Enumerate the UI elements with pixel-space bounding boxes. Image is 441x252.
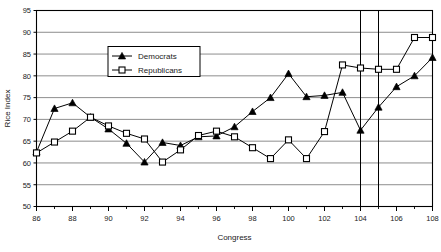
data-point-republicans-92 [142, 136, 148, 142]
data-point-republicans-104 [358, 65, 364, 71]
x-tick-label: 92 [140, 214, 148, 223]
data-point-republicans-99 [268, 156, 274, 162]
data-point-republicans-86 [34, 150, 40, 156]
x-axis-title: Congress [217, 233, 251, 242]
data-point-republicans-91 [124, 130, 130, 136]
data-point-republicans-106 [394, 66, 400, 72]
legend-marker-open-square [119, 67, 125, 73]
y-tick-label: 60 [23, 159, 31, 168]
chart-container: 5055606570758085909586889092949698100102… [0, 0, 441, 252]
plot-border [37, 11, 433, 207]
x-tick-label: 106 [390, 214, 403, 223]
data-point-republicans-102 [322, 129, 328, 135]
legend-label-0: Democrats [138, 52, 177, 61]
y-tick-label: 85 [23, 50, 31, 59]
series-democrats [37, 58, 433, 163]
data-point-republicans-93 [160, 159, 166, 165]
y-tick-label: 65 [23, 137, 31, 146]
x-tick-label: 98 [248, 214, 256, 223]
data-point-republicans-90 [106, 123, 112, 129]
chart-plot: 5055606570758085909586889092949698100102… [0, 0, 441, 252]
data-point-democrats-93 [159, 139, 166, 146]
x-tick-label: 104 [354, 214, 367, 223]
y-axis-title: Rice Index [3, 90, 12, 128]
x-tick-label: 108 [426, 214, 439, 223]
x-tick-label: 102 [318, 214, 331, 223]
x-tick-label: 90 [104, 214, 112, 223]
data-point-republicans-97 [232, 134, 238, 140]
y-tick-label: 90 [23, 28, 31, 37]
data-point-democrats-98 [249, 108, 256, 115]
y-tick-label: 50 [23, 202, 31, 211]
series-line-democrats [37, 58, 433, 163]
data-point-democrats-100 [285, 70, 292, 77]
data-point-democrats-106 [393, 83, 400, 90]
chart-legend: DemocratsRepublicans [108, 47, 200, 77]
series-line-republicans [37, 38, 433, 163]
data-point-democrats-88 [69, 99, 76, 106]
y-tick-label: 80 [23, 72, 31, 81]
legend-label-1: Republicans [138, 66, 182, 75]
data-point-republicans-89 [88, 114, 94, 120]
y-tick-label: 70 [23, 115, 31, 124]
data-point-republicans-95 [196, 133, 202, 139]
data-point-republicans-96 [214, 128, 220, 134]
series-republicans [37, 38, 433, 163]
x-tick-label: 100 [282, 214, 295, 223]
x-tick-label: 88 [68, 214, 76, 223]
data-point-republicans-108 [430, 35, 436, 41]
data-point-republicans-105 [376, 66, 382, 72]
data-point-republicans-87 [52, 139, 58, 145]
data-point-republicans-107 [412, 35, 418, 41]
data-point-democrats-103 [339, 89, 346, 96]
y-tick-label: 95 [23, 6, 31, 15]
x-tick-label: 96 [212, 214, 220, 223]
x-tick-label: 94 [176, 214, 184, 223]
data-point-democrats-108 [429, 54, 436, 61]
y-tick-label: 55 [23, 181, 31, 190]
data-point-republicans-101 [304, 156, 310, 162]
x-tick-label: 86 [32, 214, 40, 223]
y-tick-label: 75 [23, 93, 31, 102]
data-point-republicans-88 [70, 128, 76, 134]
data-point-republicans-100 [286, 137, 292, 143]
data-point-republicans-98 [250, 145, 256, 151]
data-point-republicans-103 [340, 62, 346, 68]
data-point-republicans-94 [178, 147, 184, 153]
